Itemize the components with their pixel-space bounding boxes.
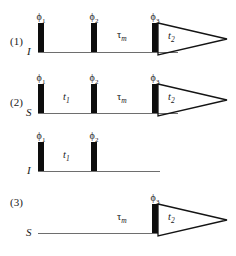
pulse-phi2-seq1 [91, 23, 97, 52]
interval-label-t1-seq2: t1 [63, 91, 70, 105]
channel-label-s-seq3: S [26, 226, 32, 238]
interval-label-t2-seq2: t2 [168, 91, 175, 105]
interval-label-taum-seq2: τm [117, 91, 127, 105]
pulse-phi1-seq3 [38, 142, 44, 171]
pulse-phi2-seq2 [91, 84, 97, 113]
phase-label-phi2-seq3: ϕ2 [83, 130, 105, 144]
channel-label-i-seq3: I [27, 164, 31, 176]
pulse-phi1-seq2 [38, 84, 44, 113]
phase-label-phi1-seq3: ϕ1 [30, 130, 52, 144]
phase-label-phi2-seq1: ϕ2 [83, 11, 105, 25]
sequence-number-3: (3) [10, 196, 23, 208]
pulse-phi1-seq1 [38, 23, 44, 52]
baseline-seq3-i [38, 171, 160, 172]
sequence-number-2: (2) [10, 96, 23, 108]
pulse-phi2-seq3 [91, 142, 97, 171]
phase-label-phi1-seq2: ϕ1 [30, 72, 52, 86]
interval-label-t2-seq3: t2 [168, 211, 175, 225]
phase-label-phi1-seq1: ϕ1 [30, 11, 52, 25]
channel-label-s-seq2: S [26, 106, 32, 118]
interval-label-taum-seq3: τm [117, 211, 127, 225]
channel-label-i-seq1: I [27, 45, 31, 57]
phase-label-phi2-seq2: ϕ2 [83, 72, 105, 86]
sequence-number-1: (1) [10, 35, 23, 47]
interval-label-t1-seq3: t1 [63, 149, 70, 163]
interval-label-taum-seq1: τm [117, 29, 127, 43]
baseline-seq3-s [38, 233, 158, 234]
interval-label-t2-seq1: t2 [168, 30, 175, 44]
pulse-sequence-figure: (1) I ϕ1 ϕ2 τm ϕ3 t2 (2) S ϕ1 t1 ϕ2 τm ϕ… [0, 0, 236, 256]
